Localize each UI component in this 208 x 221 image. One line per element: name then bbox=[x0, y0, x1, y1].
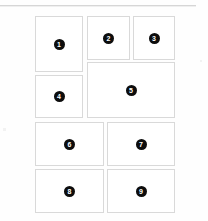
card-badge-8: 8 bbox=[64, 186, 75, 197]
card-2[interactable]: 2 bbox=[87, 16, 130, 60]
card-grid: 1 2 3 4 5 6 7 8 9 bbox=[0, 0, 208, 221]
card-badge-4: 4 bbox=[54, 91, 65, 102]
card-badge-6: 6 bbox=[64, 139, 75, 150]
card-badge-3: 3 bbox=[149, 33, 160, 44]
screen-root: 1 2 3 4 5 6 7 8 9 bbox=[0, 0, 208, 221]
card-7[interactable]: 7 bbox=[107, 122, 175, 166]
card-5[interactable]: 5 bbox=[87, 62, 175, 118]
card-badge-5: 5 bbox=[126, 85, 137, 96]
card-1[interactable]: 1 bbox=[35, 16, 83, 72]
card-6[interactable]: 6 bbox=[35, 122, 104, 166]
card-8[interactable]: 8 bbox=[35, 169, 104, 213]
card-badge-7: 7 bbox=[136, 139, 147, 150]
card-4[interactable]: 4 bbox=[35, 75, 83, 118]
card-badge-9: 9 bbox=[136, 186, 147, 197]
card-badge-2: 2 bbox=[103, 33, 114, 44]
card-9[interactable]: 9 bbox=[107, 169, 175, 213]
card-badge-1: 1 bbox=[54, 39, 65, 50]
card-3[interactable]: 3 bbox=[133, 16, 175, 60]
